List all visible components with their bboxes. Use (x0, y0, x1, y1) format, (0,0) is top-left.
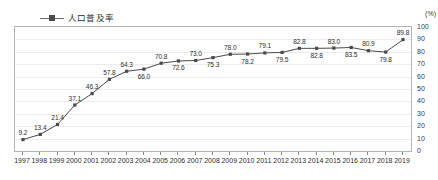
x-tick (247, 152, 248, 155)
data-point-marker (263, 51, 266, 54)
x-axis: 1997199819992000200120022003200420052006… (14, 152, 412, 176)
x-tick-label: 2015 (325, 157, 341, 165)
x-tick (333, 152, 334, 155)
population-penetration-rate-line-chart: 人口普及率 (%) 9.213.421.437.146.357.864.366.… (0, 0, 438, 180)
x-tick-label: 2005 (152, 157, 168, 165)
x-tick (22, 152, 23, 155)
x-tick-label: 1997 (14, 157, 30, 165)
data-point-label: 72.6 (172, 64, 184, 71)
x-tick (91, 152, 92, 155)
x-tick-label: 2003 (118, 157, 134, 165)
x-tick-label: 2014 (308, 157, 324, 165)
x-tick (57, 152, 58, 155)
data-point-marker (298, 47, 301, 50)
x-tick-label: 2009 (221, 157, 237, 165)
data-point-label: 82.8 (293, 38, 305, 45)
data-point-label: 83.0 (328, 38, 340, 45)
data-point-marker (73, 103, 76, 106)
x-tick (195, 152, 196, 155)
x-tick-label: 2008 (204, 157, 220, 165)
data-point-label: 79.5 (276, 56, 288, 63)
x-tick-label: 2006 (170, 157, 186, 165)
data-point-label: 21.4 (51, 114, 63, 121)
y-tick-label: 60 (417, 72, 425, 79)
x-tick-label: 1998 (31, 157, 47, 165)
x-tick-label: 2013 (291, 157, 307, 165)
data-point-label: 79.8 (380, 56, 392, 63)
x-tick (160, 152, 161, 155)
y-tick-label: 70 (417, 60, 425, 67)
data-point-marker (367, 49, 370, 52)
x-tick (316, 152, 317, 155)
x-tick-label: 2017 (360, 157, 376, 165)
x-tick (402, 152, 403, 155)
data-point-marker (56, 123, 59, 126)
x-tick (281, 152, 282, 155)
x-tick (39, 152, 40, 155)
data-point-label: 80.9 (362, 40, 374, 47)
data-point-marker (177, 59, 180, 62)
data-point-marker (160, 62, 163, 65)
data-point-label: 66.0 (138, 73, 150, 80)
x-tick-label: 2012 (273, 157, 289, 165)
data-point-label: 64.3 (120, 61, 132, 68)
y-tick-label: 100 (417, 23, 429, 30)
data-point-label: 13.4 (34, 124, 46, 131)
x-tick (177, 152, 178, 155)
x-tick (143, 152, 144, 155)
data-point-label: 78.2 (241, 58, 253, 65)
x-tick (126, 152, 127, 155)
data-point-marker (246, 52, 249, 55)
x-tick (74, 152, 75, 155)
data-point-marker (108, 78, 111, 81)
y-tick-label: 80 (417, 47, 425, 54)
data-point-label: 89.8 (397, 29, 409, 36)
data-point-marker (384, 50, 387, 53)
x-tick (298, 152, 299, 155)
y-tick-label: 10 (417, 134, 425, 141)
x-tick-label: 2016 (342, 157, 358, 165)
data-point-label: 79.1 (259, 42, 271, 49)
data-point-marker (90, 92, 93, 95)
x-tick-label: 2000 (66, 157, 82, 165)
data-point-marker (401, 38, 404, 41)
legend-series-label: 人口普及率 (68, 13, 114, 23)
x-tick (108, 152, 109, 155)
data-point-label: 75.3 (207, 61, 219, 68)
x-tick (264, 152, 265, 155)
data-point-label: 73.0 (190, 50, 202, 57)
x-tick-label: 2018 (377, 157, 393, 165)
chart-legend: 人口普及率 (40, 9, 114, 27)
y-tick-label: 50 (417, 85, 425, 92)
y-tick-label: 30 (417, 109, 425, 116)
data-point-marker (350, 46, 353, 49)
y-tick-label: 20 (417, 122, 425, 129)
x-tick-label: 2010 (239, 157, 255, 165)
y-tick-label: 40 (417, 97, 425, 104)
data-point-label: 82.8 (310, 52, 322, 59)
data-point-label: 37.1 (69, 95, 81, 102)
x-tick (229, 152, 230, 155)
x-tick-label: 2011 (256, 157, 271, 165)
data-point-label: 57.8 (103, 69, 115, 76)
x-tick-label: 1999 (49, 157, 65, 165)
data-point-marker (211, 56, 214, 59)
x-tick (367, 152, 368, 155)
data-point-marker (332, 46, 335, 49)
y-axis-unit-label: (%) (425, 10, 436, 18)
data-point-marker (21, 138, 24, 141)
y-tick-label: 0 (417, 147, 421, 154)
x-tick-label: 2001 (83, 157, 99, 165)
x-tick-label: 2019 (394, 157, 410, 165)
x-tick-label: 2004 (135, 157, 151, 165)
data-point-label: 70.8 (155, 53, 167, 60)
data-point-marker (125, 70, 128, 73)
x-tick-label: 2007 (187, 157, 203, 165)
y-axis: 0102030405060708090100 (414, 26, 438, 152)
series-line-group (15, 27, 411, 151)
legend-line-marker-icon (40, 13, 64, 23)
x-tick (212, 152, 213, 155)
data-point-label: 46.3 (86, 83, 98, 90)
data-point-marker (229, 53, 232, 56)
plot-area: 9.213.421.437.146.357.864.366.070.872.67… (14, 26, 412, 152)
